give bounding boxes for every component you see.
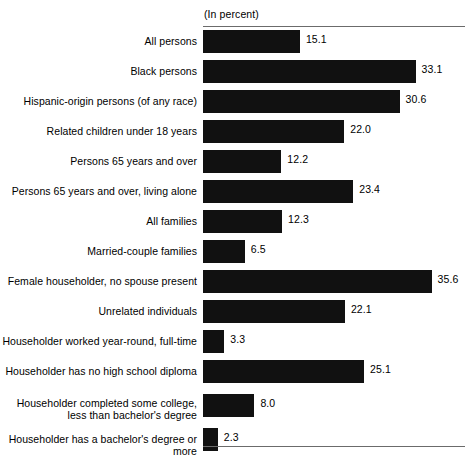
- bar-category-label: Persons 65 years and over: [0, 156, 197, 168]
- bar-category-label: Married-couple families: [0, 246, 197, 258]
- bar-category-label: Female householder, no spouse present: [0, 276, 197, 288]
- bar-fill: [203, 30, 300, 53]
- bar-category-label: Householder has no high school diploma: [0, 366, 197, 378]
- bar-category-label: All persons: [0, 36, 197, 48]
- bar-track: [203, 30, 300, 53]
- bar-row: All persons15.1: [0, 28, 470, 58]
- bar-track: [203, 150, 281, 173]
- bar-value-label: 25.1: [370, 363, 391, 375]
- bar-value-label: 35.6: [438, 273, 459, 285]
- bar-track: [203, 180, 353, 203]
- bar-track: [203, 60, 416, 83]
- bar-track: [203, 120, 344, 143]
- bar-track: [203, 428, 218, 451]
- bar-track: [203, 360, 364, 383]
- bar-row: Black persons33.1: [0, 58, 470, 88]
- bar-category-label: Hispanic-origin persons (of any race): [0, 96, 197, 108]
- bar-row: Householder has a bachelor's degree or m…: [0, 426, 470, 456]
- bar-fill: [203, 428, 218, 451]
- bar-track: [203, 270, 432, 293]
- unit-caption: (In percent): [204, 8, 259, 20]
- bar-fill: [203, 90, 400, 113]
- bar-row: Persons 65 years and over, living alone2…: [0, 178, 470, 208]
- bar-value-label: 12.3: [288, 213, 309, 225]
- bar-value-label: 22.0: [350, 123, 371, 135]
- bar-category-label: Related children under 18 years: [0, 126, 197, 138]
- bar-track: [203, 300, 345, 323]
- bar-fill: [203, 300, 345, 323]
- plot-area: All persons15.1Black persons33.1Hispanic…: [0, 28, 470, 456]
- bar-track: [203, 394, 254, 417]
- bar-value-label: 8.0: [260, 397, 275, 409]
- bar-category-label: Unrelated individuals: [0, 306, 197, 318]
- bar-category-label: Householder completed some college, less…: [0, 398, 197, 421]
- bar-value-label: 12.2: [287, 153, 308, 165]
- bar-row: Persons 65 years and over12.2: [0, 148, 470, 178]
- axis-rule-bottom: [203, 446, 465, 447]
- bar-row: Related children under 18 years22.0: [0, 118, 470, 148]
- bar-fill: [203, 60, 416, 83]
- bar-row: Unrelated individuals22.1: [0, 298, 470, 328]
- bar-track: [203, 240, 245, 263]
- bar-row: Hispanic-origin persons (of any race)30.…: [0, 88, 470, 118]
- bar-row: Householder completed some college, less…: [0, 388, 470, 426]
- bar-fill: [203, 150, 281, 173]
- bar-value-label: 2.3: [224, 431, 239, 443]
- bar-row: Householder worked year-round, full-time…: [0, 328, 470, 358]
- bar-track: [203, 90, 400, 113]
- bar-track: [203, 330, 224, 353]
- bar-value-label: 6.5: [251, 243, 266, 255]
- bar-fill: [203, 180, 353, 203]
- axis-rule-top: [203, 26, 465, 27]
- bar-fill: [203, 210, 282, 233]
- bar-fill: [203, 270, 432, 293]
- bar-row: Married-couple families6.5: [0, 238, 470, 268]
- bar-row: Householder has no high school diploma25…: [0, 358, 470, 388]
- bar-row: Female householder, no spouse present35.…: [0, 268, 470, 298]
- bar-track: [203, 210, 282, 233]
- bar-category-label: All families: [0, 216, 197, 228]
- bar-category-label: Householder worked year-round, full-time: [0, 336, 197, 348]
- bar-category-label: Householder has a bachelor's degree or m…: [0, 434, 197, 457]
- bar-fill: [203, 330, 224, 353]
- bar-fill: [203, 240, 245, 263]
- bar-fill: [203, 360, 364, 383]
- bar-category-label: Persons 65 years and over, living alone: [0, 186, 197, 198]
- bar-category-label: Black persons: [0, 66, 197, 78]
- bar-fill: [203, 120, 344, 143]
- bar-row: All families12.3: [0, 208, 470, 238]
- bar-value-label: 33.1: [422, 63, 443, 75]
- bar-value-label: 3.3: [230, 333, 245, 345]
- poverty-rate-bar-chart: (In percent) All persons15.1Black person…: [0, 0, 470, 467]
- bar-value-label: 15.1: [306, 33, 327, 45]
- bar-value-label: 22.1: [351, 303, 372, 315]
- bar-fill: [203, 394, 254, 417]
- bar-value-label: 23.4: [359, 183, 380, 195]
- bar-value-label: 30.6: [406, 93, 427, 105]
